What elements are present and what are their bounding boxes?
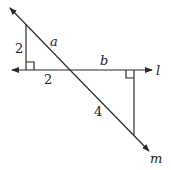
geometry-diagram: 2 a 2 b 4 l m [0, 0, 171, 170]
label-a: a [50, 34, 58, 49]
right-angle-marker-left [26, 62, 34, 70]
label-left-horizontal: 2 [44, 72, 52, 87]
label-left-vertical: 2 [15, 41, 23, 56]
line-m-upper [10, 8, 70, 70]
label-line-l: l [156, 63, 160, 78]
label-b: b [100, 53, 108, 68]
line-m-lower [70, 70, 149, 151]
label-hyp-right: 4 [94, 104, 102, 119]
label-line-m: m [150, 151, 162, 166]
right-angle-marker-right [126, 70, 134, 78]
